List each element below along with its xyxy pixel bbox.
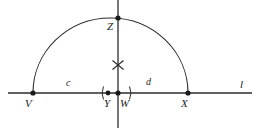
point-Y [106, 91, 111, 96]
point-Z [115, 15, 120, 20]
segment-label-c: c [66, 78, 70, 88]
line-label-l: l [240, 79, 243, 90]
geometry-diagram: V Y W X Z c d l [0, 0, 262, 128]
point-label-V: V [25, 98, 32, 109]
point-X [185, 90, 190, 95]
point-label-W: W [120, 98, 129, 109]
point-label-Y: Y [104, 98, 110, 109]
segment-label-d: d [146, 77, 151, 87]
diagram-canvas [0, 0, 262, 128]
point-label-Z: Z [107, 21, 113, 32]
point-V [30, 90, 35, 95]
point-W [115, 90, 120, 95]
point-label-X: X [181, 98, 188, 109]
